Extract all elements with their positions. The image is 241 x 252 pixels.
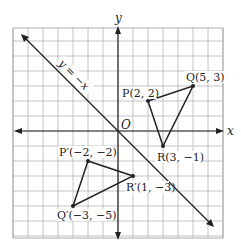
point-q-prime <box>71 204 75 208</box>
point-r-prime <box>131 174 135 178</box>
point-r <box>161 144 165 148</box>
label-q: Q(5, 3) <box>186 71 225 84</box>
line-label-group: y = −x <box>54 56 94 96</box>
x-axis-label: x <box>227 124 234 138</box>
point-q <box>191 84 195 88</box>
label-p: P(2, 2) <box>122 87 159 100</box>
label-r: R(3, −1) <box>157 151 204 164</box>
y-axis-label: y <box>114 11 122 25</box>
x-axis-left-arrow-icon <box>14 128 22 134</box>
line-label: y = −x <box>55 56 92 93</box>
origin-label: O <box>121 118 131 132</box>
point-p-prime <box>86 159 90 163</box>
label-p-prime: P′(−2, −2) <box>59 146 117 159</box>
label-r-prime: R′(1, −3) <box>126 181 176 194</box>
x-axis <box>14 128 224 134</box>
y-axis-up-arrow-icon <box>115 26 121 34</box>
label-q-prime: Q′(−3, −5) <box>57 209 117 222</box>
coordinate-plane: y x O y = −x P(2, 2) Q(5, 3) R(3, −1) P′… <box>0 0 241 252</box>
